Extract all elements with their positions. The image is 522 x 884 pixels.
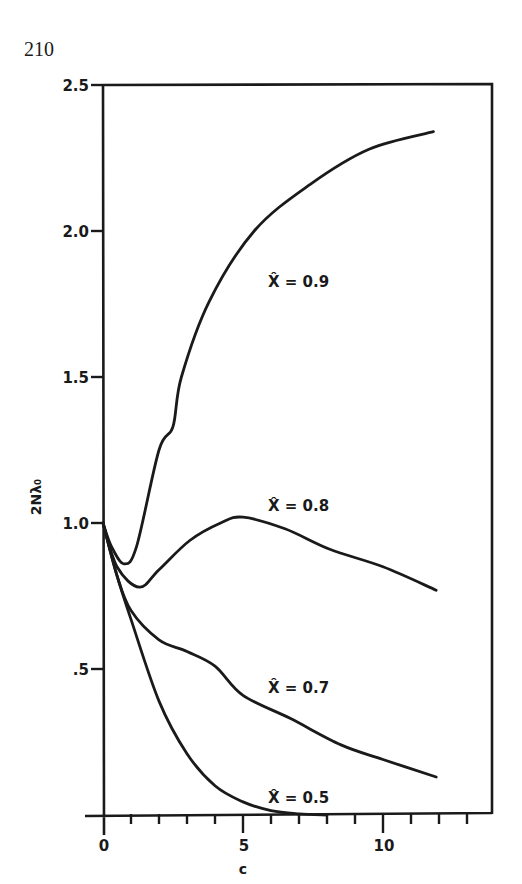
- line-chart: 0510 .51.01.52.02.5 X̂ = 0.9X̂ = 0.8X̂ =…: [0, 0, 522, 884]
- curve-label: X̂ = 0.9: [268, 272, 329, 291]
- x-tick-label: 0: [99, 837, 109, 855]
- curve-label: X̂ = 0.5: [268, 789, 329, 808]
- y-tick-label: .5: [73, 661, 89, 679]
- curve-label: X̂ = 0.8: [268, 497, 329, 516]
- x-tick-label: 5: [239, 837, 249, 855]
- y-tick-label: 2.0: [62, 223, 89, 241]
- curve-0-5: [103, 523, 327, 815]
- x-axis: 0510: [99, 814, 467, 855]
- y-axis-title: 2Nλ₀: [28, 479, 44, 515]
- y-axis: .51.01.52.02.5: [62, 77, 103, 679]
- curve-labels: X̂ = 0.9X̂ = 0.8X̂ = 0.7X̂ = 0.5: [268, 272, 329, 808]
- axis-frame: [85, 84, 492, 835]
- y-tick-label: 2.5: [62, 77, 89, 95]
- curve-0-7: [103, 523, 436, 777]
- x-axis-title: c: [239, 861, 247, 877]
- curve-label: X̂ = 0.7: [268, 678, 329, 697]
- y-tick-label: 1.5: [62, 369, 89, 387]
- plot-frame: [85, 84, 492, 835]
- x-tick-label: 10: [374, 837, 395, 855]
- curves: [103, 132, 436, 815]
- curve-0-8: [103, 517, 436, 590]
- y-tick-label: 1.0: [62, 515, 89, 533]
